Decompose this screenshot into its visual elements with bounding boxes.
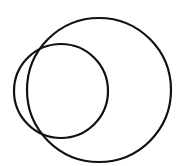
venn-diagram (0, 0, 180, 166)
